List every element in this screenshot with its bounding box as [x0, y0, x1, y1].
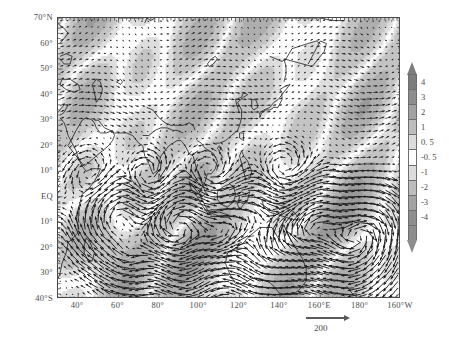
vector-key-arrowhead-icon	[344, 315, 350, 321]
colorbar-tick-mark	[408, 149, 417, 150]
colorbar-tick-label: -4	[421, 212, 428, 222]
vector-scale-key: 200	[306, 313, 366, 343]
colorbar[interactable]: 43210. 5-0. 5-1-2-3-4	[406, 62, 449, 258]
colorbar-body	[408, 74, 417, 240]
x-tick-label: 160°W	[387, 300, 413, 310]
x-tick-label: 140°	[270, 300, 287, 310]
vector-field-canvas	[58, 18, 400, 298]
x-tick-label: 120°	[230, 300, 247, 310]
x-tick-label: 180°	[351, 300, 368, 310]
y-tick-label: EQ	[0, 191, 58, 201]
y-tick-label: 20°	[0, 140, 58, 150]
colorbar-tick-mark	[408, 119, 417, 120]
colorbar-tick-label: -2	[421, 182, 428, 192]
colorbar-tick-label: -0. 5	[421, 152, 437, 162]
colorbar-tick-mark	[408, 180, 417, 181]
colorbar-segment	[409, 120, 416, 135]
y-tick-label: 60°	[0, 38, 58, 48]
colorbar-tick-mark	[408, 210, 417, 211]
colorbar-segment	[409, 211, 416, 226]
colorbar-tick-mark	[408, 134, 417, 135]
colorbar-tick-mark	[408, 225, 417, 226]
y-tick-label: 40°	[0, 89, 58, 99]
vector-key-label: 200	[314, 323, 328, 333]
colorbar-tick-mark	[408, 165, 417, 166]
colorbar-segment	[409, 75, 416, 90]
y-tick-label: 10°	[0, 165, 58, 175]
colorbar-tick-label: 2	[421, 107, 425, 117]
colorbar-tick-label: -1	[421, 167, 428, 177]
x-tick-label: 60°	[111, 300, 124, 310]
y-tick-label: 70°N	[0, 12, 58, 22]
colorbar-tick-label: 0. 5	[421, 137, 434, 147]
colorbar-segment	[409, 196, 416, 211]
y-tick-label: 40°S	[0, 293, 58, 303]
x-tick-label: 40°	[71, 300, 84, 310]
colorbar-segment	[409, 226, 416, 241]
figure-root: 70°N60°50°40°30°20°10°EQ10°20°30°40°S 40…	[0, 0, 449, 350]
colorbar-segment	[409, 150, 416, 165]
colorbar-tick-label: 3	[421, 92, 425, 102]
colorbar-segment	[409, 166, 416, 181]
colorbar-tick-mark	[408, 195, 417, 196]
y-tick-label: 50°	[0, 63, 58, 73]
colorbar-tick-mark	[408, 89, 417, 90]
x-tick-label: 100°	[190, 300, 207, 310]
y-tick-label: 20°	[0, 242, 58, 252]
y-tick-label: 30°	[0, 114, 58, 124]
colorbar-tick-label: 4	[421, 77, 425, 87]
map-plot-area[interactable]	[57, 17, 400, 298]
colorbar-min-arrow-icon	[407, 240, 417, 253]
vector-key-shaft-icon	[306, 317, 346, 319]
x-tick-label: 80°	[151, 300, 164, 310]
y-tick-label: 30°	[0, 267, 58, 277]
y-tick-label: 10°	[0, 216, 58, 226]
colorbar-tick-label: -3	[421, 197, 428, 207]
colorbar-segment	[409, 105, 416, 120]
colorbar-tick-mark	[408, 104, 417, 105]
colorbar-segment	[409, 181, 416, 196]
colorbar-segment	[409, 135, 416, 150]
colorbar-segment	[409, 90, 416, 105]
colorbar-tick-label: 1	[421, 122, 425, 132]
x-tick-label: 160°E	[308, 300, 331, 310]
